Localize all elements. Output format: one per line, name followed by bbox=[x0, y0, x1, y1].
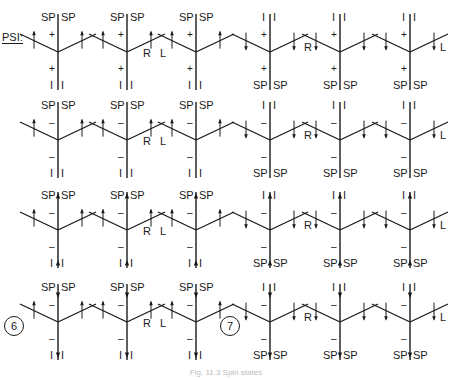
top-left-label: I bbox=[402, 282, 405, 293]
spin-state-diagram-grid: SPSPII++SPSPII++RSPSPII++LIISPSP++IISPSP… bbox=[0, 0, 452, 380]
bottom-right-label: SP bbox=[413, 350, 428, 361]
psi-label: PSI: bbox=[2, 32, 23, 44]
side-label-l: L bbox=[440, 312, 446, 323]
charge-sign-upper: – bbox=[401, 300, 407, 310]
y-vertex-diagram bbox=[0, 0, 452, 380]
bottom-left-label: SP bbox=[393, 350, 408, 361]
figure-caption: Fig. 11.3 Spin states bbox=[0, 368, 452, 377]
charge-sign-lower: – bbox=[401, 334, 407, 344]
top-right-label: I bbox=[413, 282, 416, 293]
